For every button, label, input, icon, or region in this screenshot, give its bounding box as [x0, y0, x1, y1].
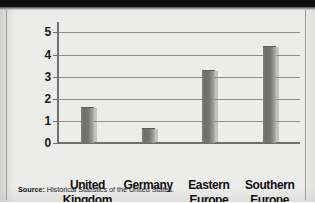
- source-note-label: Source:: [18, 185, 45, 194]
- y-axis-tick-label: 2: [45, 92, 51, 106]
- y-axis-tick-label: 5: [45, 25, 51, 39]
- source-note-text: Historical Statistics of the United Stat…: [47, 185, 174, 194]
- y-axis-tick-label: 0: [45, 136, 51, 150]
- category-label-line-1: Southern: [245, 178, 294, 192]
- category-label-line-2: Europe: [239, 193, 300, 203]
- x-axis-category-label: EasternEurope: [179, 178, 240, 202]
- category-label-line-1: Eastern: [188, 178, 229, 192]
- y-axis-tick-label: 1: [45, 114, 51, 128]
- y-axis-title: Immigrants (millions): [45, 0, 59, 7]
- figure-frame-right-rule: [305, 10, 306, 200]
- bar-chart-plot-area: Immigrants (millions) 012345 UnitedKingd…: [57, 28, 300, 143]
- y-axis-tick-label: 3: [45, 70, 51, 84]
- bar: [81, 107, 94, 143]
- category-label-line-2: Europe: [179, 193, 240, 203]
- gridline: [57, 32, 300, 33]
- bar: [263, 46, 276, 143]
- bar-shadow: [276, 47, 279, 143]
- y-axis-tick-label: 4: [45, 48, 51, 62]
- y-axis-line: [57, 22, 59, 143]
- bar: [202, 70, 215, 143]
- x-axis-category-label: SouthernEurope: [239, 178, 300, 202]
- page-top-band-fade: [0, 7, 315, 10]
- source-note: Source: Historical Statistics of the Uni…: [18, 185, 174, 194]
- figure-frame-left-rule: [6, 10, 7, 200]
- figure-container: Immigrants (millions) 012345 UnitedKingd…: [0, 0, 315, 202]
- bar-shadow: [155, 129, 158, 143]
- bar-shadow: [215, 71, 218, 143]
- bar-shadow: [94, 108, 97, 143]
- bar: [142, 128, 155, 143]
